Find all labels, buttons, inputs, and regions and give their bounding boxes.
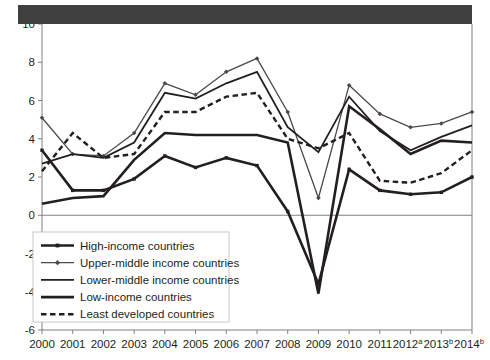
series-marker — [194, 166, 197, 169]
x-axis-ticks: 2000200120022003200420052006200720082009… — [29, 330, 484, 350]
chart-figure: 1086420-2-4-6200020012002200320042005200… — [0, 0, 490, 360]
x-tick-label: 2006 — [213, 338, 239, 350]
series-marker — [408, 125, 413, 130]
x-tick-label: 2007 — [244, 338, 270, 350]
series-line-lower-middle-income-countries — [42, 72, 472, 164]
series-marker — [378, 189, 381, 192]
x-tick-label: 2010 — [336, 338, 362, 350]
x-tick-label: 2003 — [121, 338, 147, 350]
y-tick-label: 2 — [29, 171, 35, 183]
x-tick-label: 2002 — [91, 338, 117, 350]
x-tick-label: 2012a — [393, 337, 424, 350]
header-banner — [18, 5, 472, 24]
series-marker — [225, 156, 228, 159]
x-tick-label: 2000 — [29, 338, 55, 350]
series-marker — [132, 177, 135, 180]
x-tick-label: 2008 — [275, 338, 301, 350]
line-chart: 1086420-2-4-6200020012002200320042005200… — [0, 0, 490, 360]
series-marker — [102, 189, 105, 192]
series-marker — [409, 193, 412, 196]
y-tick-label: 8 — [29, 56, 35, 68]
x-tick-label: 2004 — [152, 338, 178, 350]
series-marker — [440, 191, 443, 194]
legend-item-label: Least developed countries — [80, 308, 215, 320]
series-marker — [316, 196, 321, 201]
legend-item-label: High-income countries — [80, 240, 195, 252]
series-marker — [163, 154, 166, 157]
legend-item-label: Upper-middle income countries — [80, 257, 239, 269]
series-marker — [439, 121, 444, 126]
series-marker — [71, 189, 74, 192]
series-line-upper-middle-income-countries — [42, 58, 472, 198]
series-marker — [286, 210, 289, 213]
series-marker — [470, 175, 473, 178]
x-tick-label: 2014b — [454, 337, 484, 350]
legend-item-label: Low-income countries — [80, 291, 192, 303]
series-marker — [255, 164, 258, 167]
series-marker — [347, 168, 350, 171]
y-tick-label: 6 — [29, 95, 35, 107]
y-tick-label: 4 — [29, 133, 36, 145]
chart-legend: High-income countriesUpper-middle income… — [33, 232, 239, 322]
series-marker — [40, 149, 43, 152]
x-tick-label: 2005 — [183, 338, 209, 350]
x-tick-label: 2009 — [306, 338, 332, 350]
x-tick-label: 2013b — [423, 337, 453, 350]
series-marker — [470, 110, 475, 115]
series-line-least-developed-countries — [42, 93, 472, 183]
legend-marker — [56, 244, 60, 248]
x-tick-label: 2011 — [367, 338, 392, 350]
x-tick-label: 2001 — [60, 338, 86, 350]
y-tick-label: 0 — [29, 209, 35, 221]
legend-item-label: Lower-middle income countries — [80, 274, 239, 286]
y-tick-label: -6 — [25, 324, 35, 336]
